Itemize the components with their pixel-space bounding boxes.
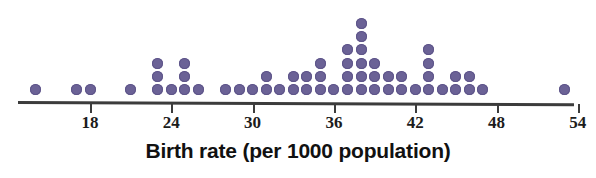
dot-plot-dot bbox=[342, 71, 353, 82]
dot-plot-dot bbox=[152, 84, 163, 95]
dot-plot-dot bbox=[396, 71, 407, 82]
x-axis-tick-label: 24 bbox=[149, 113, 193, 133]
dot-plot-dot bbox=[383, 84, 394, 95]
dot-plot-dot bbox=[301, 84, 312, 95]
dot-plot-dot bbox=[437, 84, 448, 95]
dot-plot-dot bbox=[423, 71, 434, 82]
x-axis-tick bbox=[90, 104, 92, 113]
dot-plot-dot bbox=[166, 84, 177, 95]
dot-plot-dot bbox=[396, 84, 407, 95]
dot-plot-dot bbox=[464, 71, 475, 82]
dot-plot-dot bbox=[315, 71, 326, 82]
dot-plot-dot bbox=[356, 31, 367, 42]
dot-plot-dot bbox=[30, 84, 41, 95]
dot-plot-dot bbox=[288, 84, 299, 95]
dot-plot-dot bbox=[423, 58, 434, 69]
dot-plot-dot bbox=[179, 84, 190, 95]
dot-plot-dot bbox=[559, 84, 570, 95]
dot-plot-dot-field bbox=[0, 0, 596, 104]
dot-plot-dot bbox=[85, 84, 96, 95]
x-axis-tick bbox=[253, 104, 255, 113]
dot-plot-dot bbox=[410, 84, 421, 95]
dot-plot-dot bbox=[301, 71, 312, 82]
x-axis-tick-label: 18 bbox=[68, 113, 112, 133]
dot-plot-dot bbox=[356, 58, 367, 69]
dot-plot-dot bbox=[261, 84, 272, 95]
x-axis-tick bbox=[415, 104, 417, 113]
dot-plot-dot bbox=[274, 84, 285, 95]
dot-plot-dot bbox=[179, 71, 190, 82]
dot-plot-dot bbox=[328, 84, 339, 95]
dot-plot-dot bbox=[261, 71, 272, 82]
dot-plot-dot bbox=[342, 44, 353, 55]
dot-plot-dot bbox=[356, 18, 367, 29]
dot-plot-dot bbox=[356, 84, 367, 95]
dot-plot-dot bbox=[71, 84, 82, 95]
dot-plot-dot bbox=[315, 58, 326, 69]
dot-plot-dot bbox=[356, 44, 367, 55]
dot-plot-dot bbox=[125, 84, 136, 95]
dot-plot-dot bbox=[369, 84, 380, 95]
dot-plot-dot bbox=[423, 84, 434, 95]
dot-plot-dot bbox=[342, 84, 353, 95]
dot-plot-dot bbox=[152, 71, 163, 82]
x-axis-tick-label: 54 bbox=[556, 113, 596, 133]
dot-plot-dot bbox=[152, 58, 163, 69]
dot-plot-dot bbox=[450, 71, 461, 82]
dot-plot-dot bbox=[464, 84, 475, 95]
x-axis-title: Birth rate (per 1000 population) bbox=[0, 139, 596, 163]
x-axis-tick bbox=[497, 104, 499, 113]
dot-plot-dot bbox=[369, 58, 380, 69]
x-axis-tick-label: 42 bbox=[393, 113, 437, 133]
dot-plot-figure: 18243036424854 Birth rate (per 1000 popu… bbox=[0, 0, 596, 178]
dot-plot-dot bbox=[369, 71, 380, 82]
dot-plot-dot bbox=[179, 58, 190, 69]
x-axis-tick bbox=[171, 104, 173, 113]
x-axis-tick-label: 36 bbox=[312, 113, 356, 133]
dot-plot-dot bbox=[234, 84, 245, 95]
dot-plot-dot bbox=[423, 44, 434, 55]
dot-plot-dot bbox=[356, 71, 367, 82]
x-axis-tick bbox=[334, 104, 336, 113]
x-axis-tick-label: 48 bbox=[475, 113, 519, 133]
dot-plot-dot bbox=[247, 84, 258, 95]
x-axis-tick bbox=[578, 104, 580, 113]
x-axis-tick-label: 30 bbox=[231, 113, 275, 133]
dot-plot-dot bbox=[288, 71, 299, 82]
dot-plot-dot bbox=[342, 58, 353, 69]
dot-plot-dot bbox=[383, 71, 394, 82]
dot-plot-dot bbox=[477, 84, 488, 95]
dot-plot-dot bbox=[315, 84, 326, 95]
dot-plot-dot bbox=[193, 84, 204, 95]
dot-plot-dot bbox=[220, 84, 231, 95]
dot-plot-dot bbox=[450, 84, 461, 95]
